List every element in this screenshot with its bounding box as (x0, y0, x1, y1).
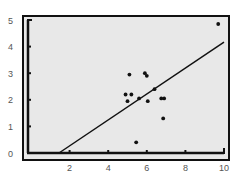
x-tick-label: 8 (183, 163, 188, 173)
x-tick-label: 10 (219, 163, 229, 173)
data-point (124, 93, 128, 97)
data-point (129, 93, 133, 97)
x-tick-label: 2 (67, 163, 72, 173)
data-point (137, 97, 141, 101)
y-tick-label: 2 (8, 95, 13, 105)
scatter-chart: 012345246810 (0, 0, 244, 179)
y-tick-label: 0 (8, 149, 13, 159)
data-point (145, 74, 149, 78)
x-tick-label: 6 (144, 163, 149, 173)
plot-frame (23, 16, 229, 160)
data-point (134, 140, 138, 144)
data-point (161, 117, 165, 121)
data-point (216, 22, 220, 26)
x-tick-label: 4 (106, 163, 111, 173)
data-point (128, 73, 132, 77)
data-point (153, 87, 157, 91)
data-point (162, 97, 166, 101)
data-point (126, 99, 130, 103)
data-point (146, 99, 150, 103)
y-tick-label: 5 (8, 16, 13, 26)
y-tick-label: 4 (8, 42, 13, 52)
y-tick-label: 1 (8, 122, 13, 132)
y-tick-label: 3 (8, 69, 13, 79)
